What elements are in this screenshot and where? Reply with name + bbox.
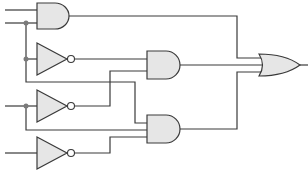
not3-output-wire (75, 137, 147, 153)
and-bottom-output-wire (180, 72, 262, 129)
not2-output-wire (75, 71, 147, 106)
junction-dot (24, 21, 29, 26)
junction-dot (24, 104, 29, 109)
junction-dot (24, 57, 29, 62)
and-gate-middle (147, 51, 180, 79)
and-gate-top (37, 3, 69, 29)
not-gate-1 (37, 43, 75, 75)
logic-circuit-diagram (0, 0, 308, 176)
and-gate-bottom (147, 115, 180, 143)
not-gate-2 (37, 90, 75, 122)
not-gate-3 (37, 137, 75, 169)
or-gate (259, 54, 300, 76)
